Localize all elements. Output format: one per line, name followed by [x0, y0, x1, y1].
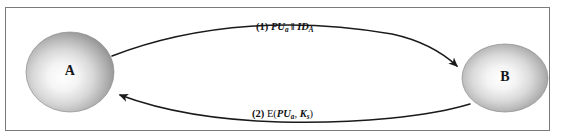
edge-2-session-key: K [300, 108, 307, 119]
edge-1-label: (1) PUa ‖ IDA [256, 22, 314, 34]
edge-2-func: E( [267, 108, 277, 119]
edge-1-identity: ID [297, 21, 309, 32]
edge-2-label: (2) E(PUa, Ks) [252, 109, 313, 121]
edge-1-number: (1) [256, 21, 268, 32]
edge-1-concat: ‖ [291, 21, 294, 32]
edge-1-key-sub: a [285, 26, 289, 34]
edge-2-key: PU [277, 108, 291, 119]
node-a-label: A [55, 64, 85, 78]
node-b-label: B [490, 70, 520, 84]
edge-1-identity-sub: A [309, 26, 314, 34]
edge-2-number: (2) [252, 108, 264, 119]
edge-1-key: PU [271, 21, 285, 32]
edge-2-close-paren: ) [309, 108, 313, 119]
